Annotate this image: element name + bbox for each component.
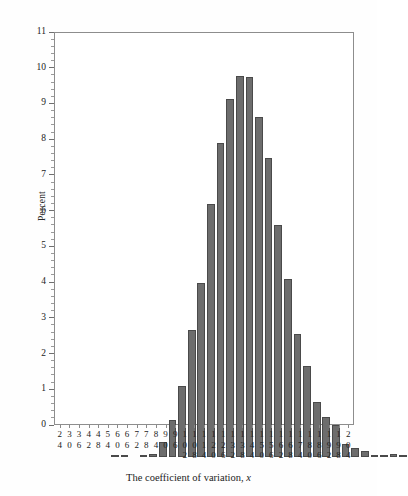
y-axis: 01234567891011 [0,32,54,425]
y-axis-tick-label: 0 [41,420,46,430]
x-axis-tick [242,425,243,428]
x-axis-tick [79,425,80,428]
bar [274,225,282,457]
x-axis-tick-digit: 2 [341,429,355,440]
x-axis-tick-label: 204 [341,429,355,461]
x-axis-tick [69,425,70,428]
x-axis-tick [291,425,292,428]
y-axis-tick-label: 10 [37,63,47,73]
y-axis-tick-label: 2 [41,349,46,359]
x-axis-tick [262,425,263,428]
bar [236,76,244,457]
y-axis-tick-label: 5 [41,241,46,251]
bar [371,455,379,457]
y-axis-tick-label: 11 [37,27,46,37]
bar [361,451,369,457]
x-axis-tick [127,425,128,428]
y-axis-tick-label: 6 [41,206,46,216]
x-axis-tick [281,425,282,428]
x-axis-tick [271,425,272,428]
bar [390,454,398,457]
y-axis-tick-label: 3 [41,313,46,323]
x-axis-tick [89,425,90,428]
x-axis-tick [175,425,176,428]
x-axis-tick [310,425,311,428]
bar [226,99,234,457]
x-axis-tick [60,425,61,428]
bar-series [110,66,408,457]
bar [255,117,263,457]
x-axis-tick [194,425,195,428]
bar [246,77,254,457]
x-axis-tick [233,425,234,428]
y-axis-tick-label: 8 [41,134,46,144]
x-axis-title: The coefficient of variation, x [0,472,377,483]
x-axis-tick [117,425,118,428]
x-axis-tick [204,425,205,428]
x-axis-tick [223,425,224,428]
x-axis-tick [156,425,157,428]
x-axis-tick [339,425,340,428]
bar [380,455,388,457]
x-axis-tick [319,425,320,428]
x-axis: 2430364248546066727884909610210811412012… [55,425,353,473]
y-axis-tick-label: 9 [41,98,46,108]
x-axis-tick [300,425,301,428]
x-axis-tick [137,425,138,428]
x-axis-tick [166,425,167,428]
x-axis-tick [146,425,147,428]
y-axis-tick-label: 7 [41,170,46,180]
bar [399,455,407,457]
x-axis-tick-digit: 4 [341,450,355,461]
y-axis-tick-label: 1 [41,384,46,394]
bar [207,204,215,457]
x-axis-tick-digit: 0 [341,440,355,451]
x-axis-tick [185,425,186,428]
x-axis-title-variable: x [246,472,251,483]
bar [265,158,273,457]
x-axis-tick [108,425,109,428]
plot-area [54,32,354,425]
bar [217,143,225,457]
x-axis-tick [98,425,99,428]
x-axis-tick [348,425,349,428]
x-axis-tick [252,425,253,428]
x-axis-tick [214,425,215,428]
y-axis-tick-label: 4 [41,277,46,287]
x-axis-tick [329,425,330,428]
